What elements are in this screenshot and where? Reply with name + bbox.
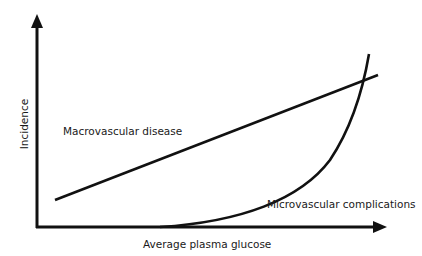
y-axis-arrow-icon bbox=[31, 14, 43, 28]
x-axis-arrow-icon bbox=[373, 221, 387, 233]
x-axis-label: Average plasma glucose bbox=[143, 238, 271, 250]
macrovascular-line bbox=[55, 75, 378, 200]
y-axis-label: Incidence bbox=[18, 98, 30, 150]
microvascular-label: Microvascular complications bbox=[267, 198, 416, 210]
macrovascular-label: Macrovascular disease bbox=[63, 125, 182, 137]
